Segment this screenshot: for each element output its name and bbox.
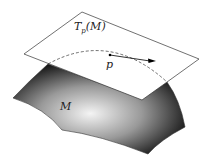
tangent-plane-label: Tp(M) bbox=[74, 20, 106, 35]
point-label: p bbox=[106, 58, 113, 71]
tangent-plane-diagram bbox=[0, 0, 213, 164]
manifold-label: M bbox=[60, 100, 71, 113]
